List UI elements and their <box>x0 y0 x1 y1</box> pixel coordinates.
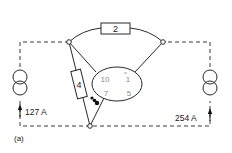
resistor-4: 4 <box>71 69 87 99</box>
arrow-up-icon <box>18 104 22 117</box>
resistor-2-label: 2 <box>113 24 118 34</box>
ellipse-label-bottom-left: 7 <box>104 89 109 98</box>
ellipse-label-bottom-right: 5 <box>127 89 132 98</box>
current-source-right <box>203 70 217 95</box>
ellipse-component: 10 1 7 5 <box>92 67 142 101</box>
node-bottom <box>88 124 93 129</box>
resistor-2: 2 <box>101 23 130 34</box>
contact-dots <box>90 96 99 105</box>
circuit-diagram: 2 4 10 1 7 5 127 A <box>0 0 232 153</box>
ellipse-label-top-left: 10 <box>101 75 110 84</box>
figure-caption: (a) <box>14 134 24 143</box>
resistor-4-label: 4 <box>76 80 81 90</box>
arrow-up-icon <box>208 108 212 121</box>
current-source-left <box>13 70 27 95</box>
source-right-current: 254 A <box>175 113 197 123</box>
node-top-left <box>67 40 72 45</box>
source-left-current: 127 A <box>25 107 47 117</box>
node-top-right <box>161 40 166 45</box>
ellipse-label-top-right: 1 <box>126 75 131 84</box>
